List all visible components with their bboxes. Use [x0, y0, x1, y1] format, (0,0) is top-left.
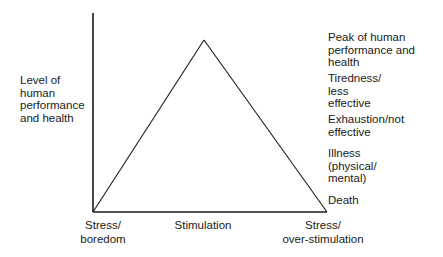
x-label-boredom: Stress/ boredom: [73, 218, 133, 246]
label-death: Death: [328, 194, 359, 207]
label-tiredness: Tiredness/ less effective: [328, 72, 381, 110]
x-label-stimulation: Stimulation: [163, 218, 243, 232]
x-label-overstimulation: Stress/ over-stimulation: [268, 218, 378, 246]
label-exhaustion: Exhaustion/not effective: [328, 113, 404, 138]
label-illness: Illness (physical/ mental): [328, 147, 377, 185]
triangle-left-edge: [93, 40, 204, 212]
triangle-right-edge: [204, 40, 327, 212]
label-peak: Peak of human performance and health: [328, 31, 415, 69]
y-axis-label: Level of human performance and health: [20, 74, 85, 124]
